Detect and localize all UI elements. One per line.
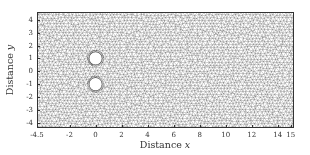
x-axis-label-text: Distance <box>140 139 185 150</box>
x-axis-label: Distance x <box>140 139 190 150</box>
x-tick-label: 6 <box>171 132 175 139</box>
x-tick-mark <box>96 125 97 128</box>
y-tick-mark <box>37 58 40 59</box>
x-tick-mark <box>200 125 201 128</box>
x-tick-mark <box>174 125 175 128</box>
y-tick-label: 4 <box>17 16 33 23</box>
x-tick-mark <box>37 125 38 128</box>
y-tick-mark <box>37 33 40 34</box>
y-tick-mark <box>37 84 40 85</box>
y-tick-label: -4 <box>17 119 33 126</box>
x-tick-mark <box>148 125 149 128</box>
x-tick-mark <box>70 125 71 128</box>
y-tick-mark <box>37 46 40 47</box>
y-tick-mark <box>37 20 40 21</box>
x-tick-label: 15 <box>286 132 295 139</box>
y-tick-label: -2 <box>17 94 33 101</box>
x-tick-label: 14 <box>273 132 282 139</box>
mesh-figure: -4.5-20246810121415 43210-1-2-3-4 Distan… <box>0 0 310 155</box>
y-tick-label: 1 <box>17 55 33 62</box>
y-tick-label: -1 <box>17 81 33 88</box>
x-tick-mark <box>291 125 292 128</box>
x-tick-label: 10 <box>221 132 230 139</box>
x-tick-mark <box>226 125 227 128</box>
x-tick-label: 12 <box>247 132 256 139</box>
x-tick-mark <box>122 125 123 128</box>
y-tick-mark <box>37 110 40 111</box>
y-axis-label-text: Distance <box>4 50 15 95</box>
y-tick-label: 2 <box>17 42 33 49</box>
triangular-mesh-plot <box>37 12 294 128</box>
y-tick-mark <box>37 97 40 98</box>
x-tick-mark <box>278 125 279 128</box>
x-tick-label: 2 <box>119 132 123 139</box>
x-tick-label: 0 <box>93 132 97 139</box>
y-tick-label: 0 <box>17 68 33 75</box>
x-tick-mark <box>252 125 253 128</box>
y-tick-mark <box>37 71 40 72</box>
x-axis-label-variable: x <box>185 139 190 150</box>
x-tick-label: 4 <box>145 132 149 139</box>
y-tick-mark <box>37 123 40 124</box>
x-tick-label: -2 <box>66 132 73 139</box>
x-tick-label: -4.5 <box>30 132 44 139</box>
x-tick-label: 8 <box>197 132 201 139</box>
y-tick-label: 3 <box>17 29 33 36</box>
y-axis-label: Distance y <box>4 45 15 95</box>
y-tick-label: -3 <box>17 106 33 113</box>
y-axis-label-variable: y <box>4 45 15 50</box>
